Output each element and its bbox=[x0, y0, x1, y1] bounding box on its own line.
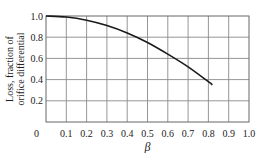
x-tick-label: 0.6 bbox=[162, 128, 175, 139]
x-tick-label: 0.1 bbox=[60, 128, 73, 139]
x-tick-label: 1.0 bbox=[243, 128, 256, 139]
series-line-0 bbox=[46, 16, 212, 85]
y-axis-label: Loss, fraction of orifice differential bbox=[4, 32, 26, 105]
series-layer bbox=[46, 16, 212, 85]
y-tick-label: 1.0 bbox=[31, 11, 44, 22]
x-axis-label: β bbox=[144, 140, 151, 153]
y-tick-label: 0.4 bbox=[31, 74, 44, 85]
x-tick-label: 0.9 bbox=[222, 128, 235, 139]
grid bbox=[46, 16, 249, 122]
x-tick-labels: 0.10.20.30.40.50.60.70.80.91.0 bbox=[60, 128, 255, 139]
y-tick-label: 0.6 bbox=[31, 53, 44, 64]
x-tick-label: 0.5 bbox=[141, 128, 154, 139]
x-tick-label: 0.3 bbox=[101, 128, 114, 139]
x-tick-label: 0.7 bbox=[182, 128, 195, 139]
x-tick-label: 0.4 bbox=[121, 128, 134, 139]
x-tick-label: 0.8 bbox=[202, 128, 215, 139]
y-tick-label: 0.8 bbox=[31, 32, 44, 43]
origin-tick-label: 0 bbox=[34, 128, 39, 139]
y-tick-label: 0.2 bbox=[31, 95, 44, 106]
y-tick-labels: 0.20.40.60.81.0 bbox=[31, 11, 44, 107]
y-axis-label-line-1: Loss, fraction of bbox=[4, 35, 15, 101]
x-tick-label: 0.2 bbox=[80, 128, 93, 139]
chart: 0.20.40.60.81.0 0.10.20.30.40.50.60.70.8… bbox=[0, 0, 259, 153]
y-axis-label-line-2: orifice differential bbox=[15, 32, 26, 105]
